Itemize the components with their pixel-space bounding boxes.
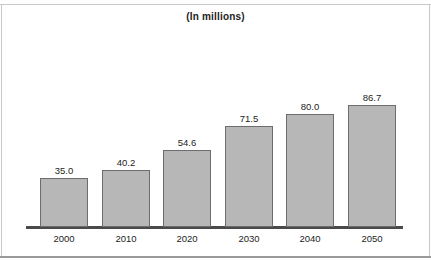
bar-group: 40.22010 <box>95 0 157 268</box>
bar-group: 54.62020 <box>156 0 218 268</box>
bar-group: 86.72050 <box>341 0 403 268</box>
bar-value-label: 80.0 <box>279 101 341 112</box>
bar[interactable] <box>225 126 273 227</box>
bar[interactable] <box>102 170 150 227</box>
bar-chart-figure: (In millions) 35.0200040.2201054.6202071… <box>0 0 431 268</box>
bar[interactable] <box>163 150 211 227</box>
bar[interactable] <box>348 105 396 227</box>
bar-group: 35.02000 <box>33 0 95 268</box>
bar-value-label: 40.2 <box>95 157 157 168</box>
bar-group: 80.02040 <box>279 0 341 268</box>
bar-value-label: 35.0 <box>33 165 95 176</box>
bar[interactable] <box>286 114 334 227</box>
x-axis-tick-label: 2030 <box>218 233 280 244</box>
bar-value-label: 71.5 <box>218 113 280 124</box>
x-axis-tick-label: 2010 <box>95 233 157 244</box>
bar-value-label: 54.6 <box>156 137 218 148</box>
bar-value-label: 86.7 <box>341 92 403 103</box>
x-axis-tick-label: 2050 <box>341 233 403 244</box>
x-axis-tick-label: 2040 <box>279 233 341 244</box>
bar-group: 71.52030 <box>218 0 280 268</box>
plot-area: 35.0200040.2201054.6202071.5203080.02040… <box>0 0 431 268</box>
x-axis-tick-label: 2020 <box>156 233 218 244</box>
bar[interactable] <box>40 178 88 227</box>
x-axis-tick-label: 2000 <box>33 233 95 244</box>
